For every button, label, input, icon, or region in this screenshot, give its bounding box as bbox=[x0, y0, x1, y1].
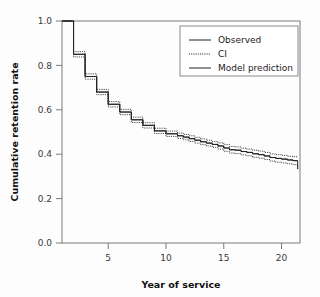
legend-label-model-prediction: Model prediction bbox=[218, 63, 293, 73]
chart-legend: ObservedCIModel prediction bbox=[180, 26, 298, 76]
y-axis-title-group: Cumulative retention rate bbox=[9, 62, 20, 201]
y-tick-label: 0.2 bbox=[38, 194, 52, 204]
y-tick-label: 0.8 bbox=[38, 61, 53, 71]
legend-label-observed: Observed bbox=[218, 35, 261, 45]
x-axis-title-group: Year of service bbox=[140, 279, 220, 290]
x-axis-ticks: 5101520 bbox=[105, 243, 287, 263]
y-tick-label: 0.6 bbox=[38, 105, 53, 115]
retention-chart: 0.00.20.40.60.81.0 5101520 Cumulative re… bbox=[0, 0, 320, 297]
y-axis-ticks: 0.00.20.40.60.81.0 bbox=[38, 16, 62, 248]
y-axis-title: Cumulative retention rate bbox=[9, 62, 20, 201]
y-tick-label: 1.0 bbox=[38, 16, 53, 26]
x-axis-title: Year of service bbox=[140, 279, 220, 290]
y-tick-label: 0.4 bbox=[38, 149, 53, 159]
x-tick-label: 10 bbox=[160, 253, 172, 263]
x-tick-label: 15 bbox=[218, 253, 229, 263]
legend-label-ci: CI bbox=[218, 49, 227, 59]
figure-container: 0.00.20.40.60.81.0 5101520 Cumulative re… bbox=[0, 0, 320, 297]
y-tick-label: 0.0 bbox=[38, 238, 53, 248]
x-tick-label: 20 bbox=[276, 253, 288, 263]
x-tick-label: 5 bbox=[105, 253, 111, 263]
